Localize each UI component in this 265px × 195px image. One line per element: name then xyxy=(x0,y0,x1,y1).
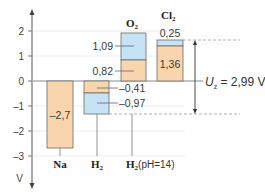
category-label-na: Na xyxy=(53,158,67,170)
y-tick-label: –2 xyxy=(13,126,25,137)
y-axis-unit-label: V xyxy=(16,173,23,184)
voltage-double-arrow xyxy=(193,40,197,114)
category-label-o2: O2 xyxy=(126,17,139,31)
bar-value-label: –0,97 xyxy=(119,97,145,109)
y-tick-label: –1 xyxy=(13,101,25,112)
marker-h2-ph14: H2(pH=14) xyxy=(126,114,174,172)
y-tick-label: 1 xyxy=(18,51,24,62)
category-label-h2-ph14: H2(pH=14) xyxy=(126,158,174,172)
bar-value-label: –0,41 xyxy=(119,82,145,94)
bar-value-label: 1,09 xyxy=(93,40,114,52)
arrow-down-icon xyxy=(30,183,35,189)
bar-o2: 1,09 0,82 O2 xyxy=(93,17,146,81)
bar-value-label: –2,7 xyxy=(50,109,71,121)
y-tick-label: 2 xyxy=(18,26,24,37)
y-tick-label: –3 xyxy=(13,151,25,162)
decomposition-voltage-label: Uz = 2,99 V xyxy=(205,75,265,90)
bar-value-label: 1,36 xyxy=(160,58,181,70)
arrow-up-icon xyxy=(30,9,35,15)
y-axis: 2 1 0 –1 –2 –3 V xyxy=(13,9,35,189)
y-tick-label: 0 xyxy=(18,76,24,87)
category-label-cl2: Cl2 xyxy=(161,9,176,23)
bar-cl2: 0,25 1,36 Cl2 xyxy=(157,9,183,81)
bar-na: –2,7 Na xyxy=(47,81,73,170)
bar-value-label: 0,25 xyxy=(160,27,181,39)
arrow-up-icon xyxy=(193,40,197,45)
arrow-down-icon xyxy=(193,109,197,114)
bar-value-label: 0,82 xyxy=(93,65,114,77)
category-label-h2: H2 xyxy=(91,158,104,172)
chart: 2 1 0 –1 –2 –3 V –2,7 Na –0,41 –0,97 H2 … xyxy=(0,0,265,195)
bar-h2: –0,41 –0,97 H2 xyxy=(84,81,145,172)
